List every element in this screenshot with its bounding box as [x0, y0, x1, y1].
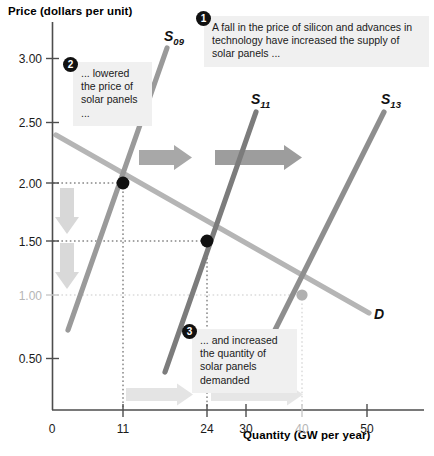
price-arrow-1 — [55, 188, 79, 234]
equilibrium-dot-24-150 — [201, 235, 214, 248]
equilibrium-dot-11-200 — [117, 177, 130, 190]
price-arrow-2 — [55, 243, 79, 289]
curve-label-s09: S09 — [164, 28, 184, 47]
guide-lines — [53, 183, 207, 409]
annotation-box-2: ... lowered the price of solar panels ..… — [73, 62, 152, 126]
price-fall-arrows — [55, 188, 79, 289]
curve-label-s09-sub: 09 — [173, 36, 184, 47]
supply-curve-s13 — [272, 112, 384, 336]
curve-label-s11: S11 — [251, 91, 270, 110]
curve-label-s09-base: S — [164, 28, 173, 44]
annotation-box-1: A fall in the price of silicon and advan… — [204, 16, 429, 67]
annotation-badge-1: 1 — [196, 11, 211, 26]
curve-label-s11-base: S — [251, 91, 260, 107]
shift-arrow-2 — [215, 145, 302, 170]
curve-label-s11-sub: 11 — [260, 99, 270, 110]
curve-label-s13: S13 — [381, 91, 401, 110]
annotation-box-3: ... and increased the quantity of solar … — [192, 329, 297, 393]
curve-label-d-base: D — [374, 306, 384, 322]
quantity-arrow-1 — [126, 384, 193, 406]
curve-label-s13-sub: 13 — [390, 99, 401, 110]
equilibrium-dot-40-100 — [296, 289, 307, 300]
curve-label-s13-base: S — [381, 91, 390, 107]
shift-arrow-1 — [139, 145, 192, 170]
annotation-badge-2: 2 — [63, 57, 78, 72]
supply-shift-arrows — [139, 145, 302, 170]
supply-demand-figure: Price (dollars per unit) Quantity (GW pe… — [0, 0, 434, 456]
curve-label-d: D — [374, 306, 384, 322]
annotation-badge-3: 3 — [182, 324, 197, 339]
